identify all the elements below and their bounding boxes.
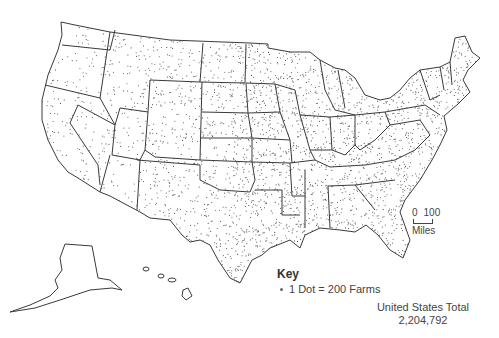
us-farm-dot-map	[0, 0, 499, 338]
state-borders	[42, 22, 480, 283]
key-title: Key	[277, 267, 299, 281]
us-total: United States Total 2,204,792	[368, 301, 478, 327]
scale-bar: 0 100 Miles	[412, 207, 440, 236]
alaska-outline	[10, 244, 122, 312]
key-item: 1 Dot = 200 Farms	[280, 283, 380, 295]
dot-icon	[280, 288, 283, 291]
scale-start: 0	[412, 207, 418, 218]
total-value: 2,204,792	[368, 314, 478, 327]
scale-unit: Miles	[412, 225, 440, 236]
scale-end: 100	[424, 207, 441, 218]
scale-line	[413, 219, 433, 224]
farm-dots	[42, 27, 476, 283]
total-label: United States Total	[368, 301, 478, 314]
hawaii-outline	[143, 267, 192, 300]
key-item-label: 1 Dot = 200 Farms	[289, 283, 380, 295]
